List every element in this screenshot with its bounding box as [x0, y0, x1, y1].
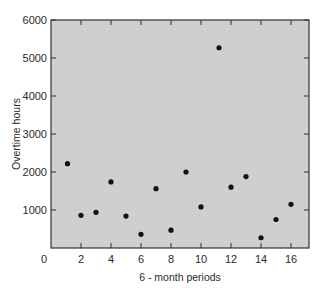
data-point [183, 169, 188, 174]
data-point [288, 202, 293, 207]
plot-area [51, 20, 309, 248]
y-axis-title: Overtime hours [10, 98, 22, 170]
data-point [78, 213, 83, 218]
y-tick-label: 2000 [23, 166, 47, 178]
y-tick-label: 1000 [23, 204, 47, 216]
x-tick-label: 6 [138, 253, 144, 265]
x-tick-label: 14 [255, 253, 267, 265]
y-tick-label: 4000 [23, 90, 47, 102]
data-point [123, 213, 128, 218]
data-point [228, 185, 233, 190]
x-tick-label: 0 [41, 253, 47, 265]
x-tick-label: 12 [225, 253, 237, 265]
data-point [243, 174, 248, 179]
y-tick-label: 6000 [23, 14, 47, 26]
x-tick-label: 2 [78, 253, 84, 265]
x-tick-label: 10 [195, 253, 207, 265]
x-tick-label: 16 [285, 253, 297, 265]
data-point [65, 161, 70, 166]
data-point [153, 186, 158, 191]
data-point [216, 45, 221, 50]
data-point [138, 232, 143, 237]
data-point [108, 179, 113, 184]
x-axis-title: 6 - month periods [139, 271, 221, 283]
y-tick-label: 3000 [23, 128, 47, 140]
data-point [273, 217, 278, 222]
data-point [198, 204, 203, 209]
x-tick-label: 4 [108, 253, 114, 265]
data-point [258, 235, 263, 240]
data-point [93, 210, 98, 215]
y-tick-label: 5000 [23, 52, 47, 64]
scatter-chart: 100020003000400050006000 0246810121416 6… [0, 0, 327, 288]
data-point [168, 228, 173, 233]
x-tick-label: 8 [168, 253, 174, 265]
